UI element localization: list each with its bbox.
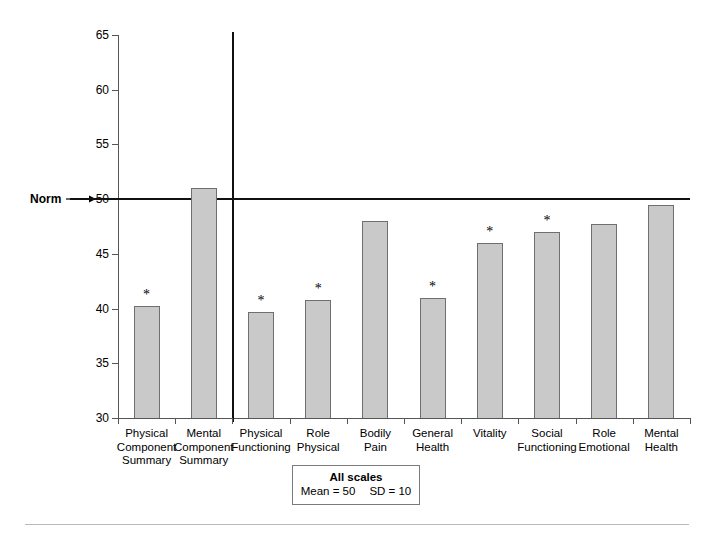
legend-mean: Mean = 50: [301, 484, 356, 499]
bar-slot: *: [518, 35, 575, 418]
bar-slot: *: [461, 35, 518, 418]
x-axis-tick-mark: [633, 418, 634, 424]
bottom-divider-rule: [25, 524, 689, 525]
y-axis-tick-label: 30: [96, 412, 109, 424]
bar-slot: *: [118, 35, 175, 418]
bar-slot: *: [232, 35, 289, 418]
x-axis-tick-mark: [290, 418, 291, 424]
x-axis-tick-mark: [461, 418, 462, 424]
legend-sd: SD = 10: [369, 484, 411, 499]
y-axis-tick-label: 60: [96, 84, 109, 96]
legend-stats: Mean = 50 SD = 10: [299, 484, 413, 499]
bar[interactable]: [648, 205, 674, 418]
x-axis-tick-mark: [518, 418, 519, 424]
x-axis-tick-mark: [404, 418, 405, 424]
y-axis-tick-label: 55: [96, 138, 109, 150]
significance-asterisk: *: [315, 282, 322, 296]
bar[interactable]: [591, 224, 617, 418]
bar-slot: *: [290, 35, 347, 418]
significance-asterisk: *: [257, 294, 264, 308]
figure-root: Norm 3035404550556065 ****** Physical Co…: [0, 0, 712, 536]
bar-slot: [347, 35, 404, 418]
bar-slot: *: [404, 35, 461, 418]
bar[interactable]: [248, 312, 274, 418]
bar[interactable]: [362, 221, 388, 418]
bar[interactable]: [534, 232, 560, 418]
significance-asterisk: *: [143, 288, 150, 302]
norm-label: Norm: [30, 193, 61, 205]
x-axis-tick-mark: [232, 418, 233, 424]
bar-slot: [175, 35, 232, 418]
bar[interactable]: [134, 306, 160, 418]
x-axis-tick-mark: [690, 418, 691, 424]
y-axis-tick-label: 35: [96, 357, 109, 369]
bar[interactable]: [191, 188, 217, 418]
bar-slot: [633, 35, 690, 418]
significance-asterisk: *: [543, 214, 550, 228]
significance-asterisk: *: [486, 225, 493, 239]
bar[interactable]: [305, 300, 331, 418]
x-axis-tick-mark: [175, 418, 176, 424]
x-axis-tick-mark: [576, 418, 577, 424]
legend-title: All scales: [299, 470, 413, 484]
bar[interactable]: [477, 243, 503, 418]
y-axis-tick-label: 40: [96, 303, 109, 315]
legend-box: All scales Mean = 50 SD = 10: [292, 465, 420, 505]
x-axis-category-label: Mental Health: [627, 427, 696, 454]
x-axis-tick-mark: [347, 418, 348, 424]
x-axis-tick-mark: [118, 418, 119, 424]
bar-slot: [576, 35, 633, 418]
bar[interactable]: [420, 298, 446, 418]
plot-area: 3035404550556065 ******: [118, 35, 690, 418]
y-axis-tick-label: 65: [96, 29, 109, 41]
y-axis-tick-label: 45: [96, 248, 109, 260]
significance-asterisk: *: [429, 280, 436, 294]
